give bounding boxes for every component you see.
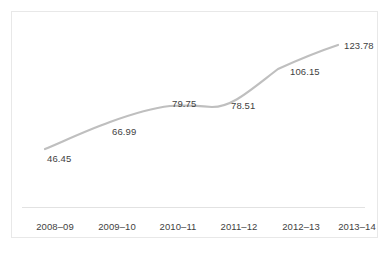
x-tick-label-0: 2008–09 [36, 222, 74, 232]
data-label-2: 79.75 [172, 99, 196, 109]
line-chart: 46.45 66.99 79.75 78.51 106.15 123.78 20… [0, 0, 391, 255]
data-label-0: 46.45 [47, 154, 71, 164]
data-label-4: 106.15 [290, 67, 320, 77]
data-label-5: 123.78 [344, 41, 374, 51]
plot-area-border [11, 11, 378, 238]
x-tick-label-1: 2009–10 [98, 222, 136, 232]
x-axis-line [22, 207, 365, 208]
data-label-1: 66.99 [112, 127, 136, 137]
x-tick-label-4: 2012–13 [282, 222, 320, 232]
x-tick-label-2: 2010–11 [160, 222, 197, 232]
x-tick-label-5: 2013–14 [338, 222, 376, 232]
x-tick-label-3: 2011–12 [221, 222, 258, 232]
data-label-3: 78.51 [231, 101, 255, 111]
